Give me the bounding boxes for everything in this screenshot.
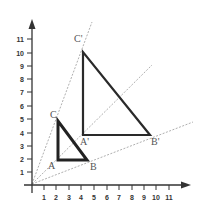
y-axis-ticks xyxy=(27,39,32,172)
y-axis-tick-labels: 1 2 3 4 5 6 7 8 9 10 11 xyxy=(16,36,24,176)
x-tick-label: 3 xyxy=(67,194,71,201)
y-tick-label: 4 xyxy=(20,130,24,137)
y-tick-label: 10 xyxy=(16,50,24,57)
y-tick-label: 9 xyxy=(20,63,24,70)
triangle-a-prime-b-prime-c-prime xyxy=(83,52,150,135)
y-tick-label: 3 xyxy=(20,143,24,150)
x-tick-label: 1 xyxy=(42,194,46,201)
label-c-prime: C' xyxy=(74,33,83,44)
x-tick-label: 4 xyxy=(79,194,83,201)
y-tick-label: 5 xyxy=(20,116,24,123)
x-tick-label: 2 xyxy=(54,194,58,201)
y-tick-label: 1 xyxy=(20,169,24,176)
label-a-prime: A' xyxy=(80,136,89,147)
x-axis-tick-labels: 1 2 3 4 5 6 7 8 9 10 11 xyxy=(42,194,173,201)
y-tick-label: 11 xyxy=(17,36,25,43)
label-c: C xyxy=(50,109,57,120)
label-a: A xyxy=(48,160,56,171)
y-tick-label: 8 xyxy=(20,76,24,83)
label-b: B xyxy=(90,161,97,172)
y-axis-arrow-icon xyxy=(29,19,36,29)
y-tick-label: 2 xyxy=(20,156,24,163)
x-axis-arrow-icon xyxy=(181,182,191,189)
y-tick-label: 7 xyxy=(20,89,24,96)
y-tick-label: 6 xyxy=(20,103,24,110)
dilation-diagram: 1 2 3 4 5 6 7 8 9 10 11 1 2 3 4 5 6 7 8 … xyxy=(0,0,202,210)
x-tick-label: 7 xyxy=(117,194,121,201)
x-tick-label: 10 xyxy=(152,194,160,201)
x-tick-label: 9 xyxy=(142,194,146,201)
label-b-prime: B' xyxy=(151,136,160,147)
dilation-rays xyxy=(32,22,193,184)
x-tick-label: 11 xyxy=(165,194,173,201)
x-tick-label: 8 xyxy=(130,194,134,201)
x-tick-label: 5 xyxy=(92,194,96,201)
x-tick-label: 6 xyxy=(105,194,109,201)
x-axis-ticks xyxy=(44,185,169,190)
ray-through-b xyxy=(32,122,193,184)
